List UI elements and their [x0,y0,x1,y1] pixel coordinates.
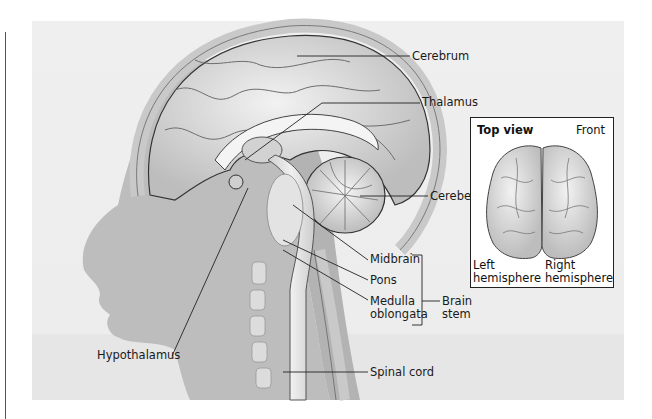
label-thalamus: Thalamus [422,96,478,109]
label-cerebrum: Cerebrum [412,50,469,63]
label-hypothalamus: Hypothalamus [97,349,180,362]
label-midbrain: Midbrain [370,253,420,266]
label-spinal-cord: Spinal cord [370,366,434,379]
top-view-inset: Top view Front Left hemisphere Right hem… [470,117,614,288]
inset-right-hemisphere-label: Right hemisphere [545,259,613,285]
inset-left-hemisphere-label: Left hemisphere [473,259,541,285]
label-medulla-oblongata: Medulla oblongata [370,295,428,321]
label-brain-stem: Brain stem [442,295,472,321]
label-pons: Pons [370,274,397,287]
